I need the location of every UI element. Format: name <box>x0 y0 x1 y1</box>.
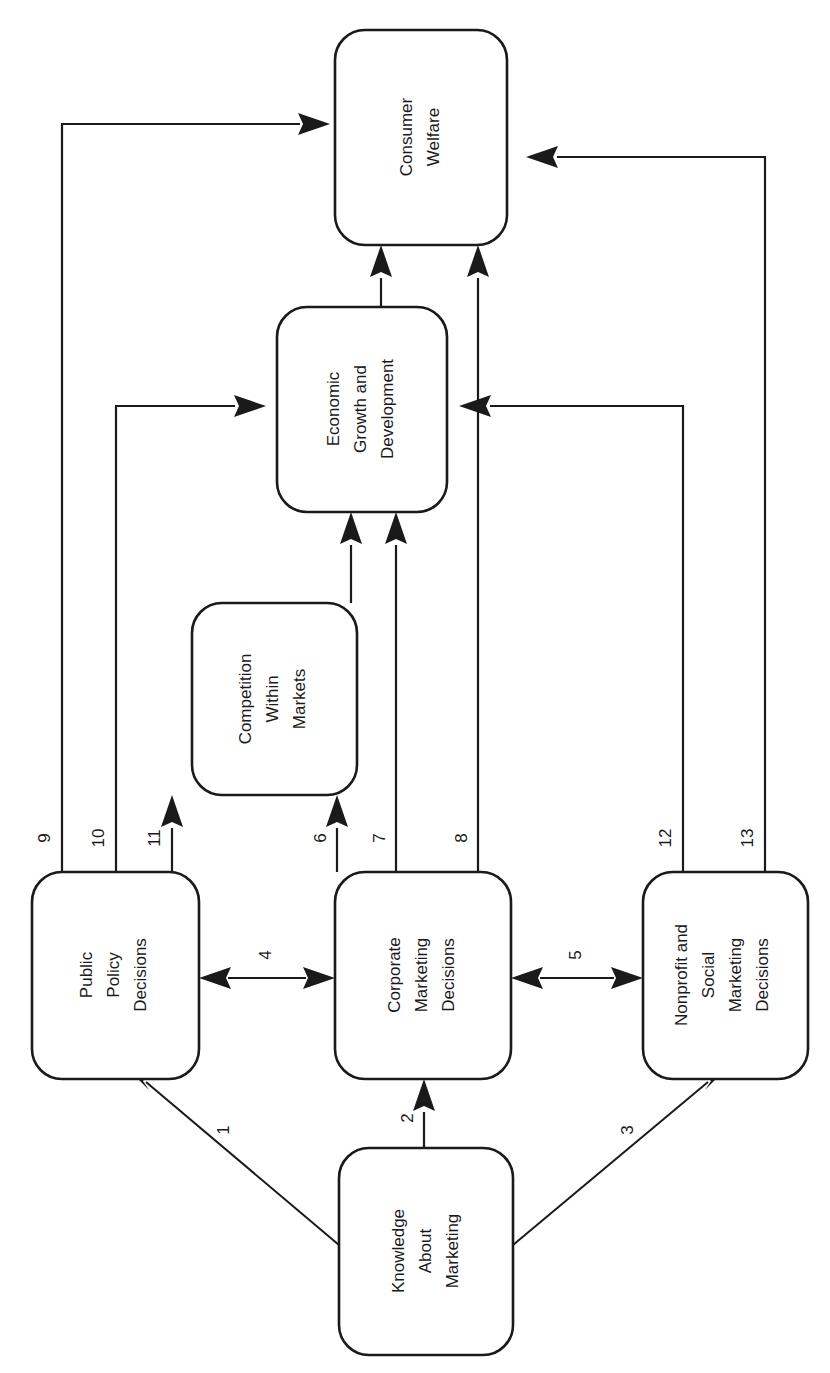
edge-label-12: 12 <box>656 829 675 848</box>
edge-8-arrowhead <box>467 245 489 277</box>
edge-economic-to-consumer-arrowhead <box>370 245 392 277</box>
node-nonprofit-line-1: Social <box>699 952 718 998</box>
edge-5-arrowhead-left <box>511 967 543 989</box>
edge-label-1: 1 <box>214 1125 233 1134</box>
node-consumer-welfare-shape[interactable] <box>335 30 507 245</box>
node-competition-line-2: Markets <box>290 669 309 729</box>
edge-label-13: 13 <box>738 829 757 848</box>
edge-8 <box>467 245 489 872</box>
node-corporate-marketing-line-0: Corporate <box>385 937 404 1013</box>
node-economic-growth-line-1: Growth and <box>351 365 370 453</box>
edge-10-arrowhead <box>234 395 266 417</box>
flow-diagram: Consumer Welfare Economic Growth and Dev… <box>0 0 830 1373</box>
edge-label-2: 2 <box>398 1113 417 1122</box>
edge-3-path <box>513 1082 708 1245</box>
node-knowledge-line-1: About <box>416 1229 435 1274</box>
node-public-policy-decisions[interactable]: Public Policy Decisions <box>32 872 199 1079</box>
node-knowledge-line-0: Knowledge <box>389 1209 408 1293</box>
node-knowledge-about-marketing[interactable]: Knowledge About Marketing <box>339 1148 513 1355</box>
edge-13-arrowhead <box>526 146 558 168</box>
edge-label-6: 6 <box>311 833 330 842</box>
node-competition-line-0: Competition <box>236 654 255 745</box>
edge-4-arrowhead-right <box>303 967 335 989</box>
node-public-policy-line-1: Policy <box>104 952 123 998</box>
edge-competition-to-economic <box>340 512 362 603</box>
node-consumer-welfare[interactable]: Consumer Welfare <box>335 30 507 245</box>
edge-label-11: 11 <box>145 829 164 847</box>
edge-7 <box>385 512 407 872</box>
node-public-policy-line-0: Public <box>77 951 96 998</box>
node-public-policy-line-2: Decisions <box>131 938 150 1012</box>
node-corporate-marketing-decisions[interactable]: Corporate Marketing Decisions <box>335 872 511 1079</box>
edge-label-3: 3 <box>618 1125 637 1134</box>
node-competition-line-1: Within <box>263 675 282 722</box>
edge-label-5: 5 <box>566 950 585 959</box>
edge-label-8: 8 <box>452 833 471 842</box>
edge-3 <box>513 1061 734 1245</box>
edge-5 <box>511 967 643 989</box>
edge-2-arrowhead <box>413 1079 435 1111</box>
node-economic-growth-text: Economic Growth and Development <box>324 359 397 459</box>
edge-4 <box>199 967 335 989</box>
edge-5-arrowhead-right <box>611 967 643 989</box>
edge-1-path <box>146 1082 339 1245</box>
edge-4-arrowhead-left <box>199 967 231 989</box>
node-economic-growth[interactable]: Economic Growth and Development <box>277 307 447 512</box>
node-nonprofit-social-marketing-decisions[interactable]: Nonprofit and Social Marketing Decisions <box>643 872 808 1079</box>
edge-12 <box>459 395 683 872</box>
node-corporate-marketing-decisions-text: Corporate Marketing Decisions <box>385 937 458 1013</box>
edge-label-7: 7 <box>370 833 389 842</box>
edge-1 <box>120 1061 339 1245</box>
edge-economic-to-consumer <box>370 245 392 307</box>
edge-7-arrowhead <box>385 512 407 544</box>
edge-12-path <box>490 406 683 872</box>
node-nonprofit-line-3: Decisions <box>753 938 772 1012</box>
node-economic-growth-line-2: Development <box>378 359 397 459</box>
node-consumer-welfare-line-1: Welfare <box>424 108 443 166</box>
edge-9-arrowhead <box>298 113 330 135</box>
node-corporate-marketing-line-2: Decisions <box>439 938 458 1012</box>
edge-label-4: 4 <box>256 950 275 959</box>
edge-label-10: 10 <box>89 829 108 848</box>
node-nonprofit-line-0: Nonprofit and <box>672 924 691 1026</box>
edge-12-arrowhead <box>459 395 491 417</box>
node-knowledge-line-2: Marketing <box>443 1214 462 1289</box>
node-economic-growth-line-0: Economic <box>324 371 343 446</box>
edge-competition-to-economic-arrowhead <box>340 512 362 544</box>
node-nonprofit-line-2: Marketing <box>726 938 745 1013</box>
node-corporate-marketing-line-1: Marketing <box>412 938 431 1013</box>
node-competition-within-markets[interactable]: Competition Within Markets <box>192 603 357 795</box>
edge-label-9: 9 <box>35 833 54 842</box>
edge-6-arrowhead <box>326 795 348 827</box>
edge-13-path <box>557 157 765 872</box>
node-consumer-welfare-line-0: Consumer <box>397 97 416 176</box>
edge-11-arrowhead <box>161 795 183 827</box>
edge-13 <box>526 146 765 872</box>
diagram-canvas: Consumer Welfare Economic Growth and Dev… <box>0 0 830 1373</box>
